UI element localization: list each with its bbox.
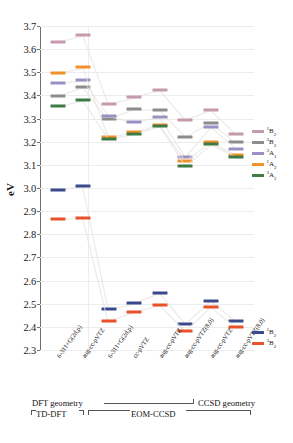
method-brackets: DFT geometry CCSD geometry TD-DFT EOM-CC… [0, 0, 293, 443]
eom-ccsd-end-tick [250, 410, 251, 415]
eom-ccsd-rule-left [88, 410, 130, 411]
td-dft-end-tick [83, 410, 84, 415]
dft-geometry-label: DFT geometry [32, 398, 83, 408]
eom-ccsd-label: EOM-CCSD [131, 409, 175, 419]
eom-ccsd-rule-right [186, 410, 251, 411]
dft-geometry-end-tick [193, 399, 194, 404]
td-dft-label: TD-DFT [36, 409, 67, 419]
dft-geometry-rule [104, 403, 194, 404]
ccsd-geometry-label: CCSD geometry [198, 398, 255, 408]
chart-root: eV 3.73.63.53.43.33.23.13.02.92.82.72.62… [0, 0, 293, 443]
